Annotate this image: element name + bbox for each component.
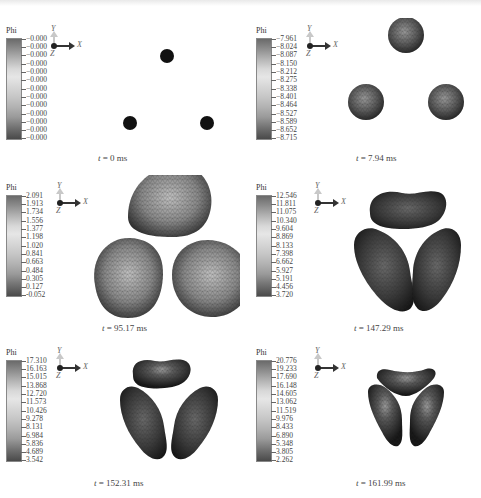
panel-t7-94: Phi −7.961 −8.024 −8.087 −8.150 −8.212 −… xyxy=(250,18,481,182)
droplet-render xyxy=(0,340,240,498)
time-caption: t = 147.29 ms xyxy=(354,323,404,333)
panel-t161-99: Phi 20.776 19.233 17.690 16.148 14.605 1… xyxy=(250,340,481,498)
time-caption: t = 7.94 ms xyxy=(356,153,397,163)
time-caption: t = 152.31 ms xyxy=(94,478,144,488)
time-caption: t = 0 ms xyxy=(98,153,127,163)
time-caption: t = 95.17 ms xyxy=(102,323,147,333)
panel-t147-29: Phi 12.546 11.811 11.075 10.340 9.604 8.… xyxy=(250,175,481,339)
cropped-header-strip xyxy=(0,0,481,6)
droplet-render xyxy=(250,340,481,498)
droplet-render xyxy=(0,175,240,339)
droplet-render xyxy=(250,175,481,339)
panel-t95-17: Phi 2.091 1.913 1.734 1.556 1.377 1.198 … xyxy=(0,175,240,339)
panel-t152-31: Phi 17.310 16.163 15.015 13.868 12.720 1… xyxy=(0,340,240,498)
time-caption: t = 161.99 ms xyxy=(356,478,406,488)
panel-t0: Phi −0.000 −0.000 −0.000 −0.000 −0.000 −… xyxy=(0,18,240,182)
